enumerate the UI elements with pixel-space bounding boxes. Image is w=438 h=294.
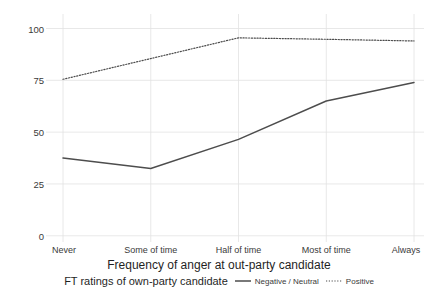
- legend-label: Positive: [346, 277, 374, 286]
- solid-line-key: [235, 277, 251, 285]
- chart-figure: Percentage voting loyally 0255075100 Nev…: [0, 0, 438, 294]
- legend-item-negative-neutral[interactable]: Negative / Neutral: [235, 277, 319, 286]
- legend-label: Negative / Neutral: [255, 277, 319, 286]
- plot-panel: [46, 14, 424, 242]
- x-tick-label-always: Always: [392, 245, 421, 255]
- y-tick-label-50: 50: [18, 127, 44, 138]
- legend-item-positive[interactable]: Positive: [326, 277, 374, 286]
- y-tick-label-25: 25: [18, 178, 44, 189]
- y-axis-tick-labels: 0255075100: [14, 14, 44, 242]
- plot-svg: [46, 14, 424, 242]
- gridlines-vertical: [63, 14, 414, 242]
- y-tick-label-0: 0: [18, 230, 44, 241]
- y-tick-label-75: 75: [18, 75, 44, 86]
- x-tick-label-half-of-time: Half of time: [216, 245, 262, 255]
- x-tick-label-never: Never: [52, 245, 76, 255]
- x-axis-title: Frequency of anger at out-party candidat…: [0, 258, 438, 272]
- legend-title: FT ratings of own-party candidate: [64, 275, 228, 287]
- gridlines-horizontal: [46, 29, 424, 236]
- x-tick-label-most-of-time: Most of time: [302, 245, 351, 255]
- chart-legend: FT ratings of own-party candidate Negati…: [0, 275, 438, 287]
- dotted-line-key: [326, 277, 342, 285]
- corner-artifact: [420, 1, 434, 9]
- x-tick-label-some-of-time: Some of time: [124, 245, 177, 255]
- y-tick-label-100: 100: [18, 23, 44, 34]
